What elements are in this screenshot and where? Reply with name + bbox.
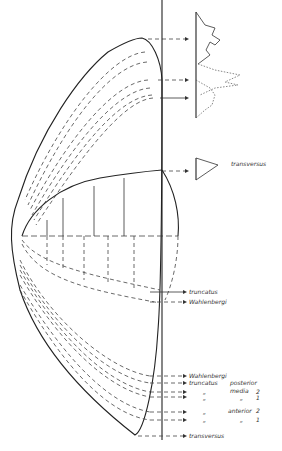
profile-chart-transversus: transversus: [162, 158, 266, 180]
label-media: media: [230, 387, 249, 394]
ditto-mark: „: [240, 394, 243, 401]
profile-chart-top: [196, 12, 240, 118]
label-truncatus-mid: truncatus: [189, 288, 218, 295]
label-anterior: anterior: [228, 407, 252, 414]
ditto-mark: „: [203, 416, 206, 423]
diagram-canvas: transversus truncatus Wahlenbergi: [0, 0, 282, 451]
outer-outline: [11, 38, 162, 435]
central-fan: [22, 0, 178, 440]
label-num-1b: 1: [256, 416, 260, 423]
label-num-1a: 1: [256, 394, 260, 401]
ditto-mark: „: [203, 408, 206, 415]
label-wahlenbergi-mid: Wahlenbergi: [189, 298, 227, 306]
upper-growth-lines: [25, 52, 153, 225]
ditto-mark: „: [240, 416, 243, 423]
label-truncatus-low: truncatus: [189, 379, 218, 386]
label-transversus-top: transversus: [231, 160, 266, 167]
label-transversus-bottom: transversus: [189, 432, 224, 439]
ditto-mark: „: [203, 394, 206, 401]
label-posterior: posterior: [229, 379, 257, 387]
label-anterior-2: 2: [256, 407, 260, 414]
